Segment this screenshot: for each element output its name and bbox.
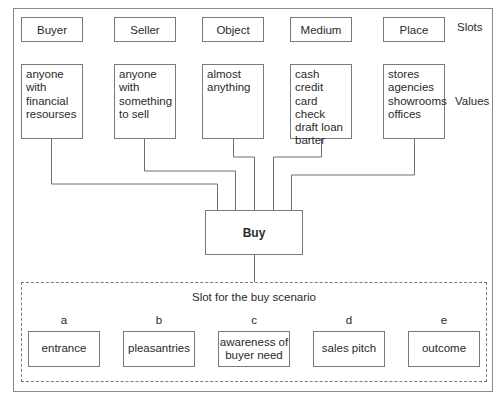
values-medium: cash credit card check draft loan barter [290,64,352,139]
step-letter-e: e [408,314,480,326]
step-letter-d: d [313,314,385,326]
slot-object: Object [202,17,264,42]
slot-label: Object [216,24,249,36]
step-sales-pitch: sales pitch [313,331,385,367]
buy-label: Buy [243,226,266,240]
values-buyer: anyone with financial resourses [21,64,83,139]
slot-label: Medium [301,24,342,36]
step-outcome: outcome [408,331,480,367]
buy-frame-box: Buy [205,210,303,255]
slot-place: Place [383,17,445,42]
values-seller: anyone with something to sell [114,64,176,139]
values-place: stores agencies showrooms offices [383,64,445,139]
step-letter-c: c [218,314,290,326]
scenario-title: Slot for the buy scenario [22,291,486,303]
values-object: almost anything [202,64,264,139]
slot-medium: Medium [290,17,352,42]
step-entrance: entrance [28,331,100,367]
slots-row-label: Slots [457,21,483,33]
values-row-label: Values [455,95,489,107]
step-letter-b: b [123,314,195,326]
slot-label: Seller [130,24,159,36]
step-awareness: awareness of buyer need [218,331,290,367]
slot-seller: Seller [114,17,176,42]
step-pleasantries: pleasantries [123,331,195,367]
slot-buyer: Buyer [21,17,83,42]
slot-label: Buyer [37,24,67,36]
step-letter-a: a [28,314,100,326]
slot-label: Place [400,24,429,36]
